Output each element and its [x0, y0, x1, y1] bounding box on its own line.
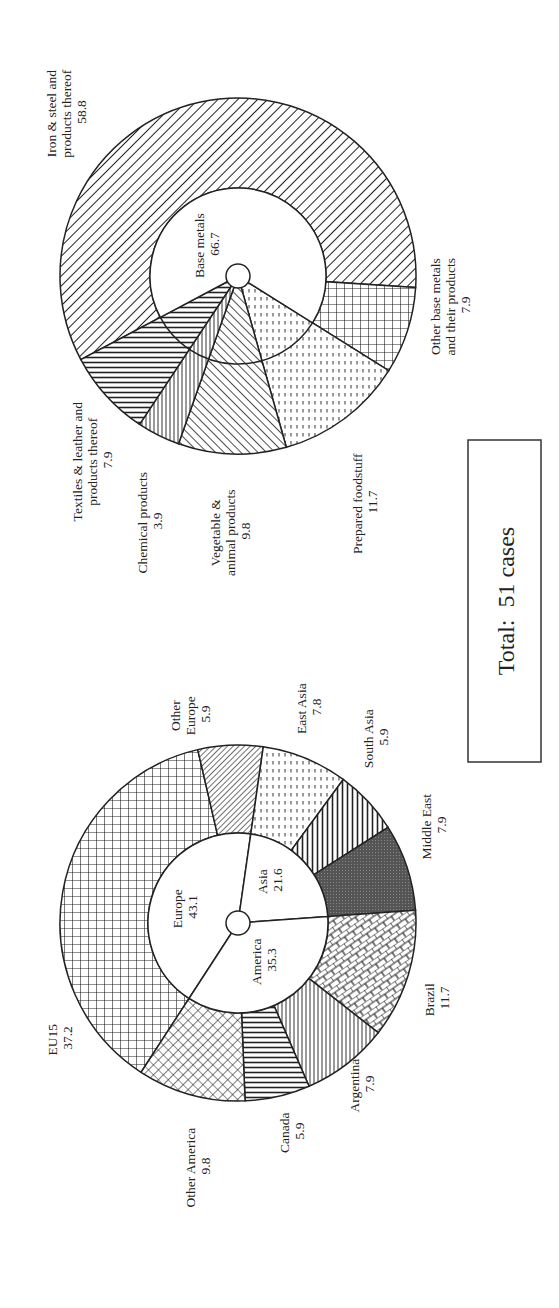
label-brazil: Brazil 11.7 [422, 980, 452, 1016]
label-asia: Asia 21.6 [255, 866, 285, 894]
label-iron-steel: Iron & steel and products thereof 58.8 [44, 66, 89, 157]
label-eu15: EU15 37.2 [45, 1021, 75, 1056]
products-donut-chart [60, 98, 416, 454]
label-textiles-leather: Textiles & leather and products thereof … [70, 399, 115, 522]
label-argentina: Argentina 7.9 [347, 1055, 377, 1112]
label-canada: Canada 5.9 [277, 1109, 307, 1153]
label-middle-east: Middle East 7.9 [419, 791, 449, 860]
figure-canvas: Total: 51 cases Iron & steel and product… [0, 0, 559, 1308]
label-other-europe: Other Europe 5.9 [168, 693, 213, 735]
label-chemical-products: Chemical products 3.9 [135, 469, 165, 574]
total-box: Total: 51 cases [468, 440, 541, 762]
total-text: Total: 51 cases [493, 527, 519, 675]
label-vegetable-animal: Vegetable & animal products 9.8 [208, 486, 253, 576]
label-other-base-metals: Other base metals and their products 7.9 [428, 255, 473, 356]
regions-donut-chart [60, 745, 416, 1101]
label-prepared-foodstuff: Prepared foodstuff 11.7 [350, 450, 380, 554]
label-south-asia: South Asia 5.9 [361, 706, 391, 768]
label-east-asia: East Asia 7.8 [294, 680, 324, 734]
center-hub-icon [226, 911, 250, 935]
center-hub-icon [226, 264, 250, 288]
label-other-america: Other America 9.8 [183, 1124, 213, 1207]
